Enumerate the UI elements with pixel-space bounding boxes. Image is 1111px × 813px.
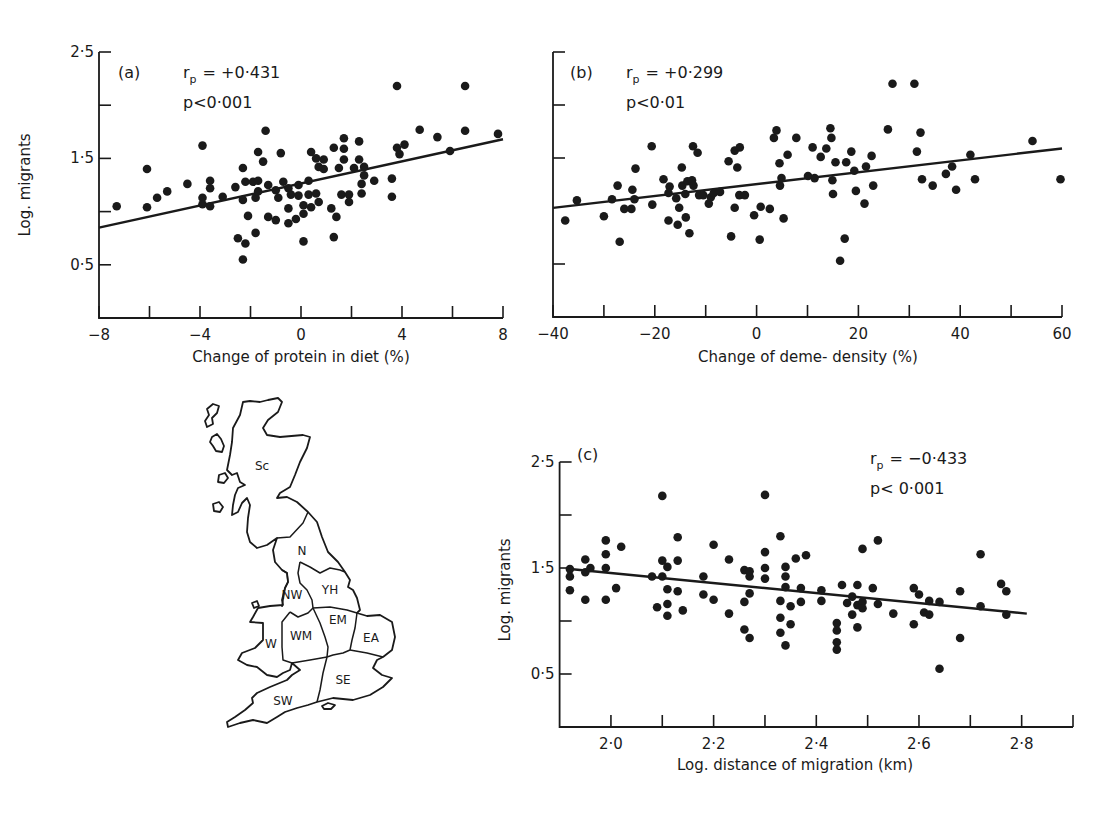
data-point [274, 194, 283, 203]
data-point [997, 580, 1006, 589]
data-point [294, 181, 303, 190]
data-point [761, 574, 770, 583]
data-point [786, 602, 795, 611]
data-point [976, 602, 985, 611]
x-tick-label: 2·0 [599, 735, 623, 753]
data-point [777, 174, 786, 183]
map-region-labels: ScNYHNWEMEAWMWSESW [255, 459, 380, 708]
data-point [745, 634, 754, 643]
data-point [494, 130, 503, 139]
data-point [952, 186, 961, 195]
data-point [304, 190, 313, 199]
data-point [709, 596, 718, 605]
island [322, 703, 335, 709]
data-point [850, 166, 859, 175]
data-point [827, 134, 836, 143]
data-point [446, 147, 455, 156]
data-point [659, 175, 668, 184]
data-point [888, 80, 897, 89]
data-point [869, 181, 878, 190]
data-point [852, 187, 861, 196]
data-point [802, 551, 811, 560]
data-point [664, 189, 673, 198]
x-axis-title: Log. distance of migration (km) [677, 756, 913, 774]
data-point [312, 189, 321, 198]
data-point [330, 233, 339, 242]
axes-frame: −40−200204060 [537, 52, 1071, 343]
data-point [836, 257, 845, 266]
data-point [792, 554, 801, 563]
x-tick-label: 2·8 [1010, 735, 1034, 753]
panel-label: (a) [118, 63, 140, 82]
data-point [345, 190, 354, 199]
data-point [653, 603, 662, 612]
data-point [755, 235, 764, 244]
data-point [254, 148, 263, 157]
region-label-wm: WM [290, 629, 312, 643]
data-point [779, 214, 788, 223]
correlation-stats: rp= −0·433p< 0·001 [870, 449, 967, 498]
data-point [828, 176, 837, 185]
data-point [685, 229, 694, 238]
p-value: p< 0·001 [870, 479, 944, 498]
data-point [775, 159, 784, 168]
x-tick-label: 60 [1052, 325, 1071, 343]
island [213, 502, 223, 512]
data-point [935, 664, 944, 673]
data-point [566, 565, 575, 574]
data-point [842, 158, 851, 167]
data-point [261, 126, 270, 135]
data-point [357, 189, 366, 198]
data-point [761, 491, 770, 500]
data-point [860, 199, 869, 208]
data-point [332, 213, 341, 222]
island [218, 473, 228, 483]
data-point [693, 148, 702, 157]
data-point [566, 572, 575, 581]
data-point [239, 196, 248, 205]
data-point [299, 201, 308, 210]
data-point [816, 153, 825, 162]
island [205, 404, 219, 427]
data-point [143, 165, 152, 174]
region-label-ea: EA [363, 631, 380, 645]
axis-lines [553, 52, 1062, 317]
data-point [319, 165, 328, 174]
panel-label: (b) [570, 63, 593, 82]
data-point [615, 237, 624, 246]
region-border [327, 650, 350, 657]
data-point [388, 192, 397, 201]
data-point [925, 597, 934, 606]
data-point [745, 589, 754, 598]
x-tick-label: 4 [397, 326, 407, 344]
data-point [206, 184, 215, 193]
axis-lines [560, 462, 1073, 727]
data-point [792, 134, 801, 143]
data-point [948, 162, 957, 171]
data-point [956, 634, 965, 643]
data-point [889, 609, 898, 618]
region-label-em: EM [329, 613, 347, 627]
data-point [673, 556, 682, 565]
data-point [602, 550, 611, 559]
x-tick-label: −20 [639, 325, 671, 343]
data-point [234, 234, 243, 243]
data-point [395, 150, 404, 159]
data-point [581, 555, 590, 564]
data-point [355, 137, 364, 146]
data-point [241, 239, 250, 248]
data-point [847, 147, 856, 156]
data-point [675, 204, 684, 213]
panel-label: (c) [577, 445, 598, 464]
data-point [858, 545, 867, 554]
data-point [350, 164, 359, 173]
y-axis-title: Log. migrants [16, 133, 34, 236]
data-point [833, 626, 842, 635]
data-point [602, 536, 611, 545]
data-point [461, 126, 470, 135]
data-point [648, 572, 657, 581]
island [252, 601, 259, 608]
data-point [648, 200, 657, 209]
data-point [292, 215, 301, 224]
data-point [928, 181, 937, 190]
